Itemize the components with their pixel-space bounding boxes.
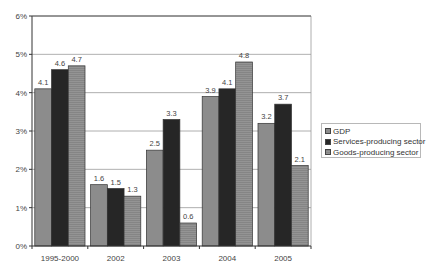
legend-item-services: Services-producing sector — [325, 137, 417, 148]
data-label: 3.3 — [166, 109, 176, 118]
bar-goods-producing-sector — [180, 223, 197, 246]
data-label: 4.1 — [38, 78, 48, 87]
bar-gdp — [258, 123, 275, 246]
bar-gdp — [35, 89, 52, 246]
data-label: 4.6 — [55, 59, 65, 68]
legend-item-gdp: GDP — [325, 126, 417, 137]
x-tick-label: 2005 — [274, 254, 292, 263]
x-tick-label: 2002 — [107, 254, 125, 263]
bars — [35, 62, 308, 246]
legend-label: GDP — [333, 127, 350, 136]
y-tick-label: 2% — [15, 165, 27, 174]
y-tick-label: 6% — [15, 12, 27, 21]
legend-swatch-services — [325, 139, 331, 145]
bar-goods-producing-sector — [236, 62, 253, 246]
data-label: 3.7 — [278, 93, 288, 102]
legend-label: Goods-producing sector — [333, 148, 418, 157]
legend-swatch-gdp — [325, 128, 331, 134]
data-label: 2.1 — [295, 155, 305, 164]
y-tick-label: 1% — [15, 204, 27, 213]
x-tick-label: 2004 — [218, 254, 236, 263]
legend-label: Services-producing sector — [333, 137, 425, 146]
bar-services-producing-sector — [219, 89, 236, 246]
bar-gdp — [146, 150, 163, 246]
x-tick-label: 2003 — [163, 254, 181, 263]
y-tick-label: 4% — [15, 89, 27, 98]
bar-services-producing-sector — [52, 70, 69, 246]
bar-goods-producing-sector — [124, 196, 141, 246]
data-label: 1.6 — [94, 174, 104, 183]
data-label: 3.2 — [261, 112, 271, 121]
data-label: 4.7 — [71, 55, 81, 64]
legend-swatch-goods — [325, 149, 331, 155]
data-label: 3.9 — [205, 86, 215, 95]
bar-goods-producing-sector — [68, 66, 85, 246]
bar-services-producing-sector — [163, 120, 180, 247]
legend: GDP Services-producing sector Goods-prod… — [321, 123, 421, 158]
y-tick-label: 3% — [15, 127, 27, 136]
bar-services-producing-sector — [107, 189, 124, 247]
data-label: 1.3 — [127, 185, 137, 194]
data-label: 4.8 — [239, 51, 249, 60]
legend-item-goods: Goods-producing sector — [325, 147, 417, 158]
data-label: 0.6 — [183, 212, 193, 221]
y-tick-label: 5% — [15, 50, 27, 59]
data-label: 2.5 — [150, 139, 160, 148]
bar-goods-producing-sector — [291, 166, 308, 247]
data-label: 4.1 — [222, 78, 232, 87]
bar-services-producing-sector — [275, 104, 292, 246]
bar-gdp — [202, 97, 219, 247]
data-label: 1.5 — [110, 178, 120, 187]
x-tick-label: 1995-2000 — [41, 254, 80, 263]
y-tick-label: 0% — [15, 242, 27, 251]
bar-gdp — [91, 185, 108, 246]
